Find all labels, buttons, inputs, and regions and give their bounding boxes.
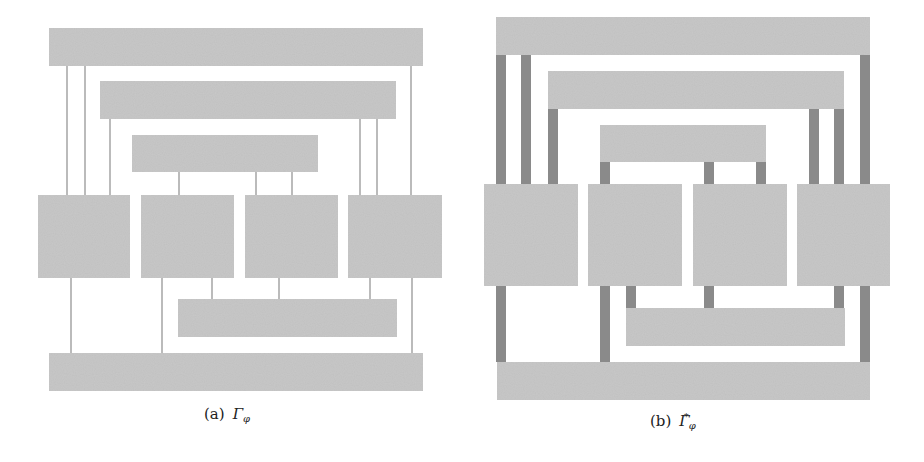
panel-a-block-2 (141, 195, 234, 278)
panel-a-connector-5 (359, 119, 360, 195)
panel-a-connector-12 (411, 278, 412, 353)
panel-a-connector-6 (376, 119, 377, 195)
panel-b-connector-15 (834, 286, 844, 308)
panel-b-connector-13 (626, 286, 636, 308)
panel-b-connector-6 (834, 109, 844, 184)
panel-a-inner-bottom-bar (178, 299, 397, 337)
panel-a-second-bar (100, 81, 396, 119)
panel-a-connector-10 (70, 278, 71, 353)
panel-a-connector-9 (291, 172, 292, 195)
panel-b-connector-12 (860, 286, 870, 362)
panel-b-top-bar (496, 17, 870, 55)
panel-b-bottom-bar (497, 362, 870, 400)
caption-b: (b)Γ*φ (650, 411, 696, 431)
panel-a-top-bar (49, 28, 423, 66)
panel-a-connector-8 (255, 172, 256, 195)
caption-b-label: (b) (650, 412, 671, 430)
panel-b-connector-14 (704, 286, 714, 308)
panel-b-connector-5 (809, 109, 819, 184)
panel-a-connector-15 (369, 278, 370, 299)
panel-b-block-4 (797, 184, 890, 286)
panel-a-block-4 (348, 195, 442, 278)
panel-a-connector-4 (109, 119, 110, 195)
caption-a-label: (a) (204, 405, 225, 423)
panel-b-connector-1 (496, 55, 506, 184)
panel-b-connector-4 (548, 109, 558, 184)
caption-a-symbol: Γ (233, 405, 243, 423)
panel-a-connector-1 (66, 66, 67, 195)
panel-b-connector-7 (600, 162, 610, 184)
panel-a-gamma-phi (38, 28, 442, 391)
panel-b-block-3 (693, 184, 787, 286)
caption-a-subscript: φ (243, 413, 250, 424)
caption-b-subscript: φ (689, 420, 696, 431)
panel-b-connector-3 (860, 55, 870, 184)
panel-b-block-1 (484, 184, 578, 286)
panel-b-connector-2 (521, 55, 531, 184)
diagram-canvas (0, 0, 924, 462)
panel-a-block-3 (245, 195, 338, 278)
panel-b-third-bar (600, 125, 766, 162)
panel-a-connector-3 (410, 66, 411, 195)
panel-b-connector-10 (496, 286, 506, 362)
panel-a-connector-7 (178, 172, 179, 195)
panel-b-second-bar (548, 71, 844, 109)
panel-a-connector-14 (278, 278, 279, 299)
panel-b-block-2 (588, 184, 682, 286)
panel-a-connector-13 (211, 278, 212, 299)
panel-b-connector-11 (600, 286, 610, 362)
panel-b-connector-9 (756, 162, 766, 184)
panel-a-bottom-bar (49, 353, 423, 391)
panel-a-third-bar (132, 135, 318, 172)
panel-b-connector-8 (704, 162, 714, 184)
panel-a-connector-11 (161, 278, 162, 353)
panel-a-connector-2 (84, 66, 85, 195)
panel-a-block-1 (38, 195, 130, 278)
panel-b-gamma-phi-star (484, 17, 890, 400)
panel-b-inner-bottom-bar (626, 308, 845, 346)
caption-a: (a)Γφ (204, 405, 250, 424)
